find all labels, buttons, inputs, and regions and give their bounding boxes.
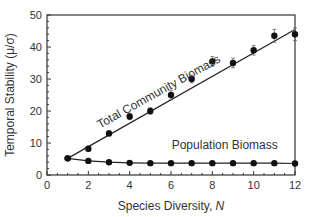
population-point [64,155,70,161]
x-axis-label: Species Diversity, N [118,199,225,213]
population-point [271,160,277,166]
total-point [271,33,277,39]
population-point [168,160,174,166]
x-tick-label: 6 [168,179,174,191]
population-point [126,160,132,166]
y-axis-label: Temporal Stability (μ/σ) [3,33,17,157]
total-point [250,47,256,53]
population-line [68,158,295,163]
y-tick-label: 10 [30,137,42,149]
x-tick-label: 0 [44,179,50,191]
total-series-label: Total Community Biomass [95,52,223,131]
x-tick-label: 12 [289,179,301,191]
population-point [147,160,153,166]
x-tick-label: 4 [127,179,133,191]
population-series-label: Population Biomass [172,138,278,152]
total-point [85,146,91,152]
population-point [230,160,236,166]
y-tick-label: 30 [30,73,42,85]
y-tick-label: 40 [30,41,42,53]
x-tick-label: 10 [248,179,260,191]
y-tick-label: 0 [36,169,42,181]
y-tick-label: 20 [30,105,42,117]
x-tick-label: 2 [85,179,91,191]
population-point [292,160,298,166]
chart: 024681012 01020304050 Total Community Bi… [0,0,312,217]
population-point [250,160,256,166]
data-series: Total Community BiomassPopulation Biomas… [64,28,298,167]
population-point [188,160,194,166]
y-axis: 01020304050 [30,9,51,181]
total-point [230,60,236,66]
x-axis: 024681012 [44,171,301,191]
population-point [106,159,112,165]
x-tick-label: 8 [209,179,215,191]
total-point [106,130,112,136]
population-point [85,158,91,164]
total-point [292,31,298,37]
total-point [147,108,153,114]
y-tick-label: 50 [30,9,42,21]
population-point [209,160,215,166]
